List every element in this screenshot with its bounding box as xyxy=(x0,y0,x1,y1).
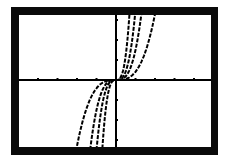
graph-screen xyxy=(19,15,211,147)
graph-plot xyxy=(19,15,211,147)
